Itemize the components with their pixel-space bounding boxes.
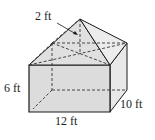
pyramid-height-label: 2 ft	[35, 9, 51, 24]
length-label: 12 ft	[55, 114, 77, 129]
width-label: 10 ft	[120, 97, 142, 112]
front-face	[29, 65, 110, 112]
prism-height-label: 6 ft	[4, 81, 20, 96]
solid-diagram	[0, 0, 155, 140]
